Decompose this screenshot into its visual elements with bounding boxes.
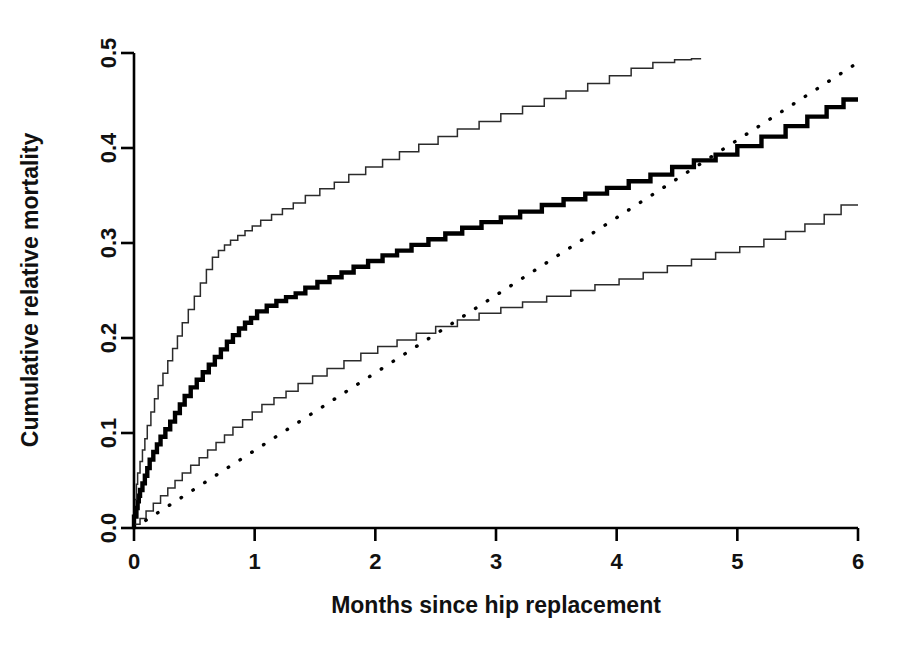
x-tick-label-5: 5 bbox=[731, 549, 743, 574]
y-tick-label-0.4: 0.4 bbox=[96, 132, 121, 163]
chart-container: 0.00.10.20.30.40.5 0123456 Months since … bbox=[0, 0, 901, 656]
y-tick-label-0.5: 0.5 bbox=[96, 38, 121, 69]
x-axis-title: Months since hip replacement bbox=[331, 592, 661, 618]
series-2 bbox=[134, 205, 858, 528]
x-tick-label-1: 1 bbox=[249, 549, 261, 574]
y-tick-label-0.3: 0.3 bbox=[96, 228, 121, 259]
y-axis-title: Cumulative relative mortality bbox=[17, 133, 43, 448]
y-tick-label-0.1: 0.1 bbox=[96, 418, 121, 449]
y-axis-ticks: 0.00.10.20.30.40.5 bbox=[96, 38, 135, 544]
cumulative-relative-mortality-chart: 0.00.10.20.30.40.5 0123456 Months since … bbox=[0, 0, 901, 656]
x-tick-label-3: 3 bbox=[490, 549, 502, 574]
y-tick-label-0.0: 0.0 bbox=[96, 513, 121, 544]
x-tick-label-4: 4 bbox=[611, 549, 624, 574]
x-tick-label-0: 0 bbox=[128, 549, 140, 574]
series-3 bbox=[134, 63, 858, 529]
y-tick-label-0.2: 0.2 bbox=[96, 323, 121, 354]
y-axis: 0.00.10.20.30.40.5 bbox=[96, 38, 135, 544]
x-axis: 0123456 bbox=[128, 528, 864, 574]
series-layer bbox=[134, 59, 858, 528]
series-1 bbox=[134, 59, 701, 528]
x-tick-label-2: 2 bbox=[369, 549, 381, 574]
x-axis-ticks: 0123456 bbox=[128, 528, 864, 574]
x-tick-label-6: 6 bbox=[852, 549, 864, 574]
